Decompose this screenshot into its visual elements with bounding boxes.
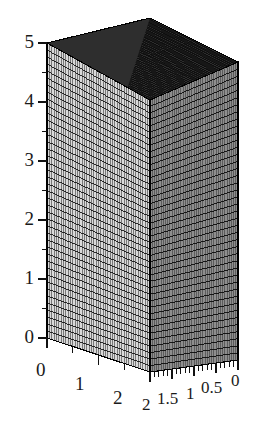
z-tick-label-4: 4: [14, 91, 34, 110]
y-tick-label-1p5: 1.5: [157, 390, 178, 407]
right-front-face: [150, 62, 238, 372]
z-tick-label-0: 0: [14, 327, 34, 346]
z-tick-label-2: 2: [14, 209, 34, 228]
x-tick-label-2: 2: [113, 388, 123, 407]
y-tick-label-1: 1: [186, 385, 195, 402]
y-tick-label-0p5: 0.5: [201, 379, 222, 396]
y-tick-label-2: 2: [142, 396, 151, 413]
z-tick-label-1: 1: [14, 268, 34, 287]
left-front-face: [47, 43, 150, 372]
x-tick-label-0: 0: [36, 360, 46, 379]
z-tick-label-5: 5: [14, 32, 34, 51]
z-tick-label-3: 3: [14, 150, 34, 169]
y-tick-label-0: 0: [231, 372, 240, 389]
plot-figure: 5 4 3 2 1 0 0 1 2 2 1.5 1 0.5 0: [0, 0, 262, 426]
x-tick-label-1: 1: [75, 374, 85, 393]
